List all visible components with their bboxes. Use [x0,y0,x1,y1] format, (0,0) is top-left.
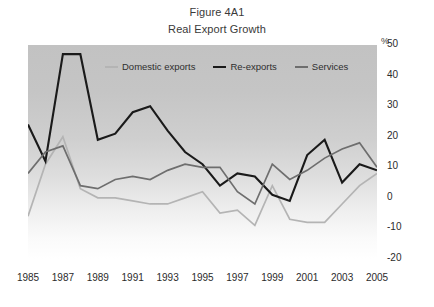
legend-label: Services [312,62,348,72]
x-axis-tick-label: 2005 [366,272,388,283]
legend-swatch-icon [295,66,308,68]
legend-swatch-icon [105,66,118,68]
y-axis-tick-label: 20 [387,130,398,141]
legend-label: Domestic exports [122,62,195,72]
legend-entry[interactable]: Re-exports [213,62,276,72]
chart-legend: Domestic exportsRe-exportsServices [105,62,348,72]
x-axis-tick-label: 2003 [331,272,353,283]
line-chart-svg [28,45,377,259]
x-axis-tick-label: 2001 [296,272,318,283]
figure-title: Figure 4A1 [0,6,434,18]
series-line [28,54,377,201]
y-axis-tick-label: -20 [387,252,401,263]
x-axis-tick-label: 1985 [17,272,39,283]
y-axis-tick-label: 40 [387,69,398,80]
series-line [28,143,377,204]
plot-area [28,45,377,259]
legend-entry[interactable]: Services [295,62,348,72]
y-axis-tick-label: -10 [387,221,401,232]
figure-subtitle: Real Export Growth [0,23,434,35]
figure-container: Figure 4A1 Real Export Growth Domestic e… [0,0,434,307]
x-axis-tick-label: 1989 [87,272,109,283]
legend-label: Re-exports [230,62,276,72]
x-axis-tick-label: 1997 [226,272,248,283]
series-line [28,137,377,226]
y-axis-tick-label: 10 [387,160,398,171]
x-axis-tick-label: 1993 [156,272,178,283]
x-axis-tick-label: 1999 [261,272,283,283]
x-axis-tick-label: 1987 [52,272,74,283]
legend-swatch-icon [213,66,226,68]
y-axis-tick-label: 50 [387,38,398,49]
legend-entry[interactable]: Domestic exports [105,62,195,72]
y-axis-tick-label: 0 [387,191,393,202]
x-axis-tick-label: 1995 [191,272,213,283]
x-axis-tick-label: 1991 [122,272,144,283]
y-axis-tick-label: 30 [387,99,398,110]
